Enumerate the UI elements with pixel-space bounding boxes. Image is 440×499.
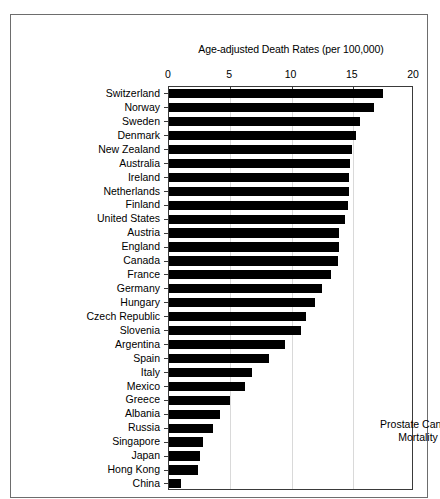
bar	[169, 396, 230, 405]
category-label: New Zealand	[98, 143, 160, 156]
category-label: Spain	[133, 352, 160, 365]
bar-row: Greece	[169, 393, 412, 407]
category-label: Sweden	[122, 115, 160, 128]
bar	[169, 256, 338, 265]
category-label: Switzerland	[106, 87, 160, 100]
category-label: France	[127, 268, 160, 281]
bar-row: Sweden	[169, 115, 412, 129]
category-label: Argentina	[115, 338, 160, 351]
category-label: Hungary	[120, 296, 160, 309]
bar	[169, 298, 315, 307]
category-label: Denmark	[117, 129, 160, 142]
bar	[169, 242, 339, 251]
bar-row: Austria	[169, 226, 412, 240]
category-label: Japan	[131, 449, 160, 462]
bar-row: Argentina	[169, 338, 412, 352]
bar	[169, 326, 301, 335]
bar-row: Germany	[169, 282, 412, 296]
bar	[169, 437, 203, 446]
bar	[169, 89, 383, 98]
bar	[169, 103, 374, 112]
bar-row: Hungary	[169, 296, 412, 310]
bar	[169, 312, 306, 321]
x-tick-label: 20	[407, 68, 419, 80]
bar	[169, 131, 356, 140]
bar	[169, 284, 322, 293]
bar-row: Slovenia	[169, 324, 412, 338]
bar	[169, 270, 331, 279]
bar	[169, 368, 252, 377]
category-label: Hong Kong	[107, 463, 160, 476]
bar-row: New Zealand	[169, 143, 412, 157]
bar-row: United States	[169, 212, 412, 226]
x-tick-label: 0	[165, 68, 171, 80]
bar	[169, 382, 245, 391]
bar-row: Denmark	[169, 129, 412, 143]
x-axis-tick-labels: 05101520	[168, 68, 413, 82]
bar-row: Norway	[169, 101, 412, 115]
category-label: Greece	[126, 393, 160, 406]
bar	[169, 340, 285, 349]
bar	[169, 424, 213, 433]
chart-title: Age-adjusted Death Rates (per 100,000)	[158, 43, 424, 55]
bar-row: Ireland	[169, 171, 412, 185]
category-label: Canada	[123, 254, 160, 267]
bar	[169, 145, 352, 154]
category-label: Slovenia	[120, 324, 160, 337]
category-label: Finland	[126, 198, 160, 211]
bar-row: England	[169, 240, 412, 254]
x-tick-label: 15	[346, 68, 358, 80]
category-label: England	[121, 240, 160, 253]
bar	[169, 159, 350, 168]
category-label: Czech Republic	[86, 310, 160, 323]
bar-row: Canada	[169, 254, 412, 268]
category-label: Russia	[128, 421, 160, 434]
category-label: Austria	[127, 226, 160, 239]
bar	[169, 451, 200, 460]
category-label: Singapore	[112, 435, 160, 448]
bar	[169, 479, 181, 488]
category-label: Mexico	[127, 380, 160, 393]
bar-row: China	[169, 477, 412, 491]
bar	[169, 187, 349, 196]
bar	[169, 465, 198, 474]
bar-row: Japan	[169, 449, 412, 463]
category-label: Ireland	[128, 171, 160, 184]
category-label: Australia	[119, 157, 160, 170]
bar-row: Netherlands	[169, 185, 412, 199]
category-label: Albania	[125, 407, 160, 420]
bar	[169, 201, 348, 210]
bar	[169, 354, 269, 363]
x-tick-label: 5	[226, 68, 232, 80]
figure-frame: Age-adjusted Death Rates (per 100,000) 0…	[10, 14, 428, 498]
bar-row: Finland	[169, 198, 412, 212]
bar-row: Australia	[169, 157, 412, 171]
bar	[169, 228, 339, 237]
category-label: United States	[97, 212, 160, 225]
bar-row: Switzerland	[169, 87, 412, 101]
category-label: Italy	[141, 366, 160, 379]
bar	[169, 173, 349, 182]
bar	[169, 410, 220, 419]
bar-row: Mexico	[169, 380, 412, 394]
bar-row: Spain	[169, 352, 412, 366]
category-label: Netherlands	[103, 185, 160, 198]
bar-row: Italy	[169, 366, 412, 380]
x-tick-label: 10	[285, 68, 297, 80]
category-label: China	[133, 477, 160, 490]
bar	[169, 117, 360, 126]
bar-row: Hong Kong	[169, 463, 412, 477]
annotation-prostate-cancer-mortality: Prostate Cancer Mortality	[368, 418, 440, 444]
plot-area: SwitzerlandNorwaySwedenDenmarkNew Zealan…	[168, 86, 413, 490]
bar-row: France	[169, 268, 412, 282]
category-label: Germany	[117, 282, 160, 295]
category-label: Norway	[124, 101, 160, 114]
bar-row: Czech Republic	[169, 310, 412, 324]
bar	[169, 215, 345, 224]
